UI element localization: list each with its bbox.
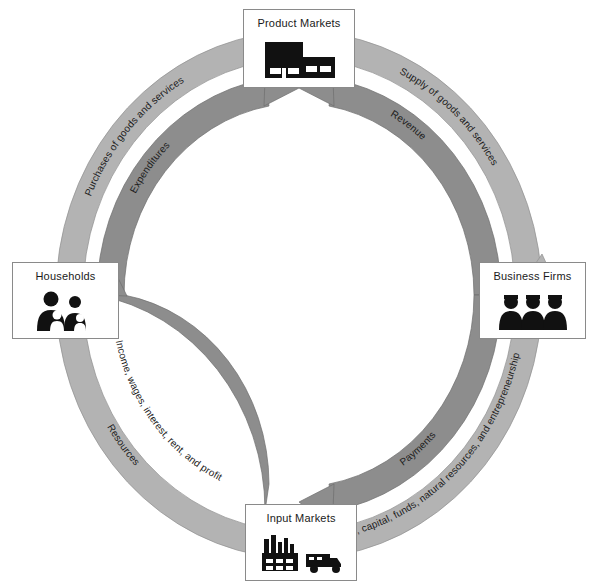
flow-arc-revenue [299,59,501,295]
node-label-households: Households [35,270,95,282]
node-label-input-markets: Input Markets [266,512,335,524]
node-product-markets[interactable]: Product Markets [243,9,355,88]
node-households[interactable]: Households [12,262,119,339]
node-label-product-markets: Product Markets [257,17,340,29]
node-input-markets[interactable]: Input Markets [245,504,357,581]
flow-arc-expenditures [97,59,299,295]
business-people-icon [480,285,585,338]
node-label-business-firms: Business Firms [494,270,572,282]
factory-storefront-icon [244,32,354,87]
flow-arc-payments [299,295,501,531]
circular-flow-diagram: Purchases of goods and services Expendit… [0,0,598,586]
node-business-firms[interactable]: Business Firms [479,262,586,339]
family-icon [13,285,118,338]
factory-truck-icon [246,527,356,580]
